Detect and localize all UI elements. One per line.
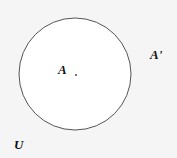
set-a-circle (19, 18, 131, 130)
center-point (75, 74, 77, 76)
universe-label: U (14, 137, 23, 153)
venn-canvas (0, 0, 177, 158)
set-a-label: A (58, 62, 67, 78)
complement-label: A' (150, 47, 162, 63)
